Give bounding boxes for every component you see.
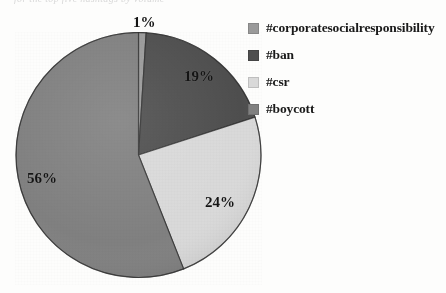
pie-chart-plot-area <box>15 32 262 285</box>
legend-swatch-corporatesocialresponsibility <box>248 23 259 34</box>
pie-chart-svg <box>15 32 262 285</box>
legend-label-ban: #ban <box>266 47 294 63</box>
legend-label-corporatesocialresponsibility: #corporatesocialresponsibility <box>266 20 435 36</box>
pie-data-label-ban: 19% <box>184 68 214 85</box>
legend-item-boycott: #boycott <box>248 98 444 120</box>
legend-swatch-csr <box>248 77 259 88</box>
pie-chart-figure: for the top five hashtags by volume 1% 1… <box>0 0 446 293</box>
pie-data-label-corporatesocialresponsibility: 1% <box>133 14 156 31</box>
legend-label-boycott: #boycott <box>266 101 314 117</box>
chart-legend: #corporatesocialresponsibility #ban #csr… <box>248 17 444 125</box>
pie-shading-overlay <box>16 33 261 278</box>
pie-data-label-csr: 24% <box>205 194 235 211</box>
legend-swatch-ban <box>248 50 259 61</box>
pie-data-label-boycott: 56% <box>27 170 57 187</box>
legend-item-ban: #ban <box>248 44 444 66</box>
legend-item-corporatesocialresponsibility: #corporatesocialresponsibility <box>248 17 444 39</box>
legend-item-csr: #csr <box>248 71 444 93</box>
legend-label-csr: #csr <box>266 74 289 90</box>
legend-swatch-boycott <box>248 104 259 115</box>
clipped-header-text: for the top five hashtags by volume <box>14 0 254 5</box>
